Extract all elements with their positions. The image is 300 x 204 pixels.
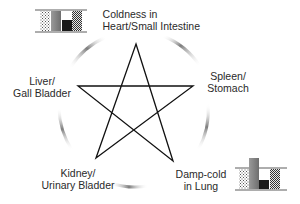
node-top-line2: Heart/Small Intestine bbox=[90, 20, 200, 32]
arc-right bbox=[198, 104, 208, 150]
node-bottom-right-line2: in Lung bbox=[166, 180, 236, 192]
node-bottom-right-label: Damp-cold in Lung bbox=[166, 168, 236, 192]
arc-left bbox=[59, 108, 72, 150]
circle-arcs bbox=[59, 36, 208, 187]
node-left-line1: Liver/ bbox=[12, 75, 72, 87]
node-bottom-right-line1: Damp-cold bbox=[166, 168, 236, 180]
node-bottom-left-line1: Kidney/ bbox=[38, 167, 118, 179]
node-bottom-left-line2: Urinary Bladder bbox=[38, 179, 118, 191]
arc-top-right bbox=[163, 36, 200, 66]
node-top-label: Coldness in Heart/Small Intestine bbox=[90, 8, 200, 32]
pentagram-star bbox=[78, 44, 193, 161]
bar-glyph-top bbox=[35, 10, 87, 32]
node-right-label: Spleen/ Stomach bbox=[203, 70, 253, 94]
node-left-label: Liver/ Gall Bladder bbox=[12, 75, 72, 99]
arc-top-left bbox=[70, 37, 106, 68]
node-bottom-left-label: Kidney/ Urinary Bladder bbox=[38, 167, 118, 191]
node-top-line1: Coldness in bbox=[90, 8, 200, 20]
node-right-line1: Spleen/ bbox=[203, 70, 253, 82]
node-left-line2: Gall Bladder bbox=[12, 87, 72, 99]
node-right-line2: Stomach bbox=[203, 82, 253, 94]
bar-glyph-bottom bbox=[235, 158, 287, 190]
pentagram-diagram: Coldness in Heart/Small Intestine Spleen… bbox=[0, 0, 300, 204]
